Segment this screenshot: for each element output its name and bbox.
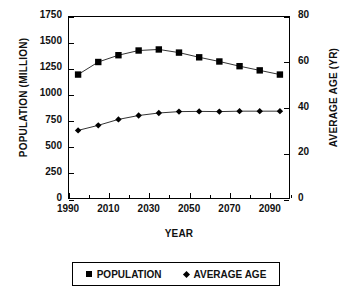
x-tick-label: 2090 [247,203,293,214]
data-point-diamond-marker [257,108,263,114]
y-axis-right-title: AVERAGE AGE (YR) [328,8,339,188]
data-point-diamond-marker [176,108,182,114]
data-point-square-marker [236,63,242,69]
data-point-diamond-marker [135,112,141,118]
x-tick-mark-minor [291,195,292,198]
x-tick-label: 2070 [206,203,252,214]
data-point-diamond-marker [216,108,222,114]
legend-item-average-age: AVERAGE AGE [184,269,267,280]
y-tick-label-left: 0 [20,192,62,203]
y-tick-label-right: 20 [298,146,340,157]
data-point-diamond-marker [75,127,81,133]
y-tick-label-right: 0 [298,192,340,203]
legend-label-population: POPULATION [97,269,162,280]
data-point-square-marker [156,46,162,52]
data-point-square-marker [95,59,101,65]
data-point-square-marker [257,67,263,73]
y-tick-mark-left [69,200,74,201]
legend-item-population: POPULATION [86,269,162,280]
data-point-diamond-marker [156,110,162,116]
y-tick-label-left: 500 [20,140,62,151]
x-axis-title: YEAR [68,228,290,239]
data-point-square-marker [216,58,222,64]
data-series-layer [68,16,290,199]
y-tick-label-left: 1000 [20,87,62,98]
chart-figure: POPULATION (MILLION) AVERAGE AGE (YR) YE… [0,0,348,300]
x-tick-label: 2010 [85,203,131,214]
data-point-square-marker [196,54,202,60]
data-point-diamond-marker [115,116,121,122]
data-point-square-marker [75,71,81,77]
y-tick-label-left: 250 [20,166,62,177]
chart-legend: POPULATION AVERAGE AGE [72,262,280,286]
data-point-diamond-marker [95,122,101,128]
data-point-diamond-marker [277,108,283,114]
y-tick-label-right: 60 [298,55,340,66]
y-tick-label-left: 1500 [20,35,62,46]
y-tick-label-left: 1750 [20,9,62,20]
x-tick-label: 2030 [126,203,172,214]
data-point-square-marker [135,47,141,53]
x-tick-label: 2050 [166,203,212,214]
x-tick-label: 1990 [45,203,91,214]
y-tick-label-left: 1250 [20,61,62,72]
data-point-square-marker [277,71,283,77]
data-point-square-marker [115,52,121,58]
y-tick-mark-right [284,200,289,201]
square-marker-icon [86,271,92,277]
data-point-diamond-marker [236,108,242,114]
legend-label-average-age: AVERAGE AGE [194,269,267,280]
y-tick-label-right: 80 [298,9,340,20]
diamond-marker-icon [182,270,189,277]
y-tick-label-left: 750 [20,114,62,125]
y-tick-label-right: 40 [298,101,340,112]
data-point-square-marker [176,49,182,55]
data-point-diamond-marker [196,108,202,114]
